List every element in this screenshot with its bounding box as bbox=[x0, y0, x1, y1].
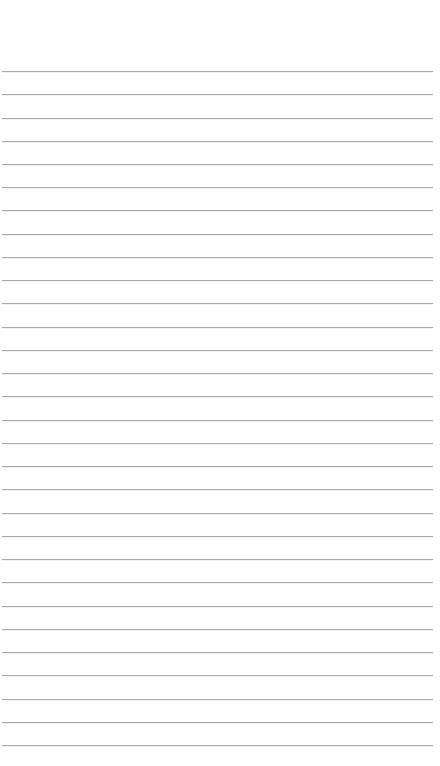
text-line-slot[interactable] bbox=[2, 329, 433, 350]
text-line-slot[interactable] bbox=[2, 677, 433, 698]
text-line-slot[interactable] bbox=[2, 73, 433, 94]
text-line-slot[interactable] bbox=[2, 445, 433, 466]
text-line-slot[interactable] bbox=[2, 305, 433, 326]
text-line-slot[interactable] bbox=[2, 724, 433, 745]
rule-line bbox=[2, 94, 433, 95]
text-line-slot[interactable] bbox=[2, 282, 433, 303]
rule-line bbox=[2, 489, 433, 490]
rule-line bbox=[2, 141, 433, 142]
page-bottom-margin bbox=[0, 747, 440, 766]
rule-line bbox=[2, 257, 433, 258]
text-line-slot[interactable] bbox=[2, 561, 433, 582]
text-line-slot[interactable] bbox=[2, 189, 433, 210]
text-line-slot[interactable] bbox=[2, 491, 433, 512]
ruled-writing-area[interactable] bbox=[0, 0, 440, 766]
rule-line bbox=[2, 559, 433, 560]
rule-line bbox=[2, 373, 433, 374]
rule-line bbox=[2, 745, 433, 746]
text-line-slot[interactable] bbox=[2, 96, 433, 117]
text-line-slot[interactable] bbox=[2, 143, 433, 164]
ruled-paper-page bbox=[0, 0, 440, 766]
text-line-slot[interactable] bbox=[2, 352, 433, 373]
text-line-slot[interactable] bbox=[2, 119, 433, 140]
text-line-slot[interactable] bbox=[2, 700, 433, 721]
text-line-slot[interactable] bbox=[2, 468, 433, 489]
rule-line bbox=[2, 443, 433, 444]
text-line-slot[interactable] bbox=[2, 166, 433, 187]
text-line-slot[interactable] bbox=[2, 50, 433, 71]
rule-line bbox=[2, 210, 433, 211]
text-line-slot[interactable] bbox=[2, 375, 433, 396]
text-line-slot[interactable] bbox=[2, 514, 433, 535]
rule-line bbox=[2, 722, 433, 723]
text-line-slot[interactable] bbox=[2, 236, 433, 257]
rule-line bbox=[2, 675, 433, 676]
text-line-slot[interactable] bbox=[2, 538, 433, 559]
text-line-slot[interactable] bbox=[2, 584, 433, 605]
text-line-slot[interactable] bbox=[2, 421, 433, 442]
text-line-slot[interactable] bbox=[2, 631, 433, 652]
rule-line bbox=[2, 327, 433, 328]
text-line-slot[interactable] bbox=[2, 607, 433, 628]
text-line-slot[interactable] bbox=[2, 259, 433, 280]
text-line-slot[interactable] bbox=[2, 654, 433, 675]
rule-line bbox=[2, 606, 433, 607]
text-line-slot[interactable] bbox=[2, 398, 433, 419]
text-line-slot[interactable] bbox=[2, 212, 433, 233]
